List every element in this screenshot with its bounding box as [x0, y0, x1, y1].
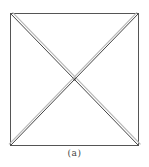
square-with-diagonals-diagram	[0, 0, 149, 167]
intersection-point	[74, 79, 76, 81]
figure-caption: (a)	[0, 148, 149, 158]
